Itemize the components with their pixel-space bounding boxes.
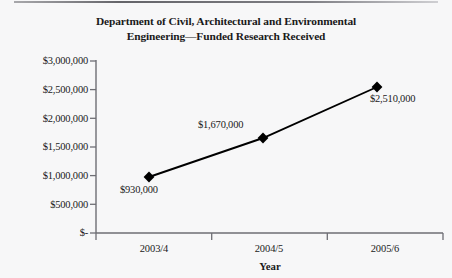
data-point-label: $1,670,000 xyxy=(198,119,243,131)
y-tick-label: $2,000,000 xyxy=(10,113,88,124)
data-line-series xyxy=(149,87,377,177)
x-tick-label: 2003/4 xyxy=(94,243,214,255)
x-axis-title: Year xyxy=(210,260,330,272)
data-point-label: $930,000 xyxy=(120,184,158,196)
y-tick-label: $3,000,000 xyxy=(10,55,88,66)
y-tick-label: $2,500,000 xyxy=(10,84,88,95)
x-tick-label: 2005/6 xyxy=(325,243,445,255)
y-axis-ticks xyxy=(90,61,96,233)
x-axis-ticks xyxy=(96,233,443,240)
data-point-marker xyxy=(372,82,383,93)
y-tick-label: $500,000 xyxy=(10,199,88,210)
x-tick-label: 2004/5 xyxy=(209,243,329,255)
chart-page: Department of Civil, Architectural and E… xyxy=(0,0,452,278)
data-point-marker xyxy=(144,172,155,183)
data-point-label: $2,510,000 xyxy=(370,93,415,105)
data-point-marker xyxy=(258,133,269,144)
y-tick-label: $1,500,000 xyxy=(10,141,88,152)
y-tick-label: $- xyxy=(10,227,88,238)
y-tick-label: $1,000,000 xyxy=(10,170,88,181)
